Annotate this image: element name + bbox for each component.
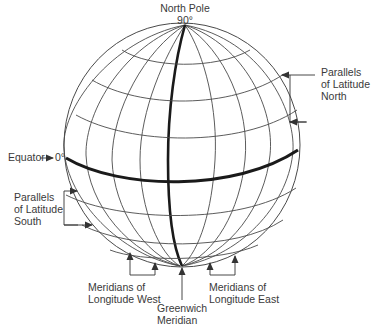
north-pole-degrees: 90° <box>152 14 218 26</box>
meridians-west-label: Meridians of Longitude West <box>88 281 161 305</box>
equator-line <box>66 150 298 182</box>
parallels-north-label: Parallels of Latitude North <box>321 66 370 102</box>
parallels-south-label: Parallels of Latitude South <box>14 191 63 227</box>
parallels-south-line3: South <box>14 215 63 227</box>
parallels-north-arrows <box>282 75 315 122</box>
meridians-east-label: Meridians of Longitude East <box>209 281 279 305</box>
meridian-lines <box>64 25 293 266</box>
globe-outline <box>64 23 300 267</box>
equator-degrees-label: 0° <box>55 151 65 163</box>
parallels-south-line2: of Latitude <box>14 203 63 215</box>
north-pole-text: North Pole <box>152 2 218 14</box>
greenwich-line1: Greenwich <box>157 302 207 314</box>
meridians-west-line2: Longitude West <box>88 293 161 305</box>
parallels-north-line2: of Latitude <box>321 78 370 90</box>
greenwich-line2: Meridian <box>157 314 207 326</box>
parallels-south-line1: Parallels <box>14 191 63 203</box>
parallels-north-line3: North <box>321 90 370 102</box>
globe-diagram <box>0 0 375 327</box>
meridians-east-arrows <box>210 256 235 275</box>
equator-label: Equator <box>8 151 45 163</box>
meridians-west-line1: Meridians of <box>88 281 161 293</box>
parallels-north-line1: Parallels <box>321 66 370 78</box>
equator-degrees: 0° <box>55 151 65 163</box>
north-pole-label: North Pole 90° <box>152 2 218 26</box>
meridians-east-line1: Meridians of <box>209 281 279 293</box>
parallel-lines <box>66 50 297 258</box>
equator-text: Equator <box>8 151 45 163</box>
greenwich-meridian-line <box>168 25 185 266</box>
greenwich-meridian-label: Greenwich Meridian <box>157 302 207 326</box>
meridians-east-line2: Longitude East <box>209 293 279 305</box>
